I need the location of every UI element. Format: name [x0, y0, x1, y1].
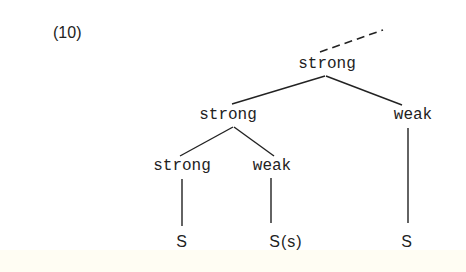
leaf-1: S: [176, 233, 188, 251]
leaf-2: S(s): [269, 233, 302, 251]
node-right: weak: [394, 106, 432, 124]
tree-edges: [0, 0, 466, 272]
edge-left-leftright: [234, 127, 274, 156]
node-left-right: weak: [253, 157, 291, 175]
edge-root-right: [326, 76, 402, 105]
leaf-3: S: [401, 233, 413, 251]
dashed-parent-edge: [320, 30, 383, 52]
edge-root-left: [232, 76, 325, 104]
node-left-left: strong: [153, 157, 211, 175]
node-left: strong: [199, 106, 257, 124]
node-root: strong: [298, 55, 356, 73]
edge-left-leftleft: [180, 127, 233, 156]
